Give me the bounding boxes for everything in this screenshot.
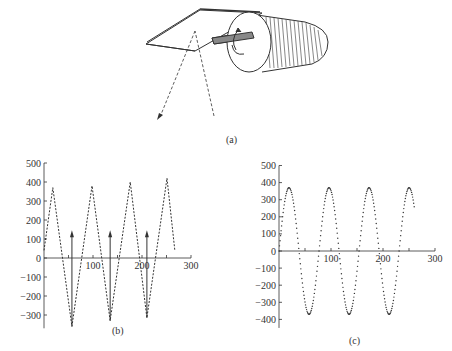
panel-labels: (a) (b) (c)	[0, 0, 452, 351]
panel-a-label: (a)	[226, 134, 237, 146]
panel-c-label: (c)	[349, 335, 360, 347]
panel-b-label: (b)	[112, 325, 124, 337]
